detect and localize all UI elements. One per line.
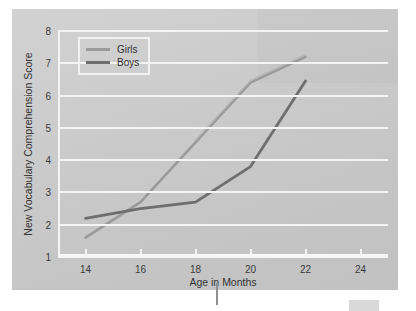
legend-item-girls: Girls — [86, 43, 139, 56]
chart-page: New Vocabulary Comprehension Score Age i… — [0, 0, 416, 311]
x-tick-mark — [360, 249, 362, 258]
line-boys — [86, 81, 306, 218]
y-tick-label: 8 — [45, 26, 51, 37]
x-tick-label: 14 — [80, 264, 91, 275]
y-tick-label: 7 — [45, 58, 51, 69]
x-tick-label: 22 — [300, 264, 311, 275]
y-tick-label: 4 — [45, 155, 51, 166]
gridline — [58, 159, 388, 161]
y-tick-label: 5 — [45, 122, 51, 133]
x-tick-label: 18 — [190, 264, 201, 275]
gridline — [58, 191, 388, 193]
x-tick-label: 16 — [135, 264, 146, 275]
y-tick-label: 1 — [45, 252, 51, 263]
y-axis-title: New Vocabulary Comprehension Score — [20, 31, 36, 257]
x-tick-label: 20 — [245, 264, 256, 275]
y-tick-label: 6 — [45, 90, 51, 101]
y-tick-label: 2 — [45, 219, 51, 230]
legend-label-girls: Girls — [117, 44, 138, 55]
chart-legend: Girls Boys — [78, 37, 150, 75]
legend-item-boys: Boys — [86, 56, 139, 69]
gridline — [58, 224, 388, 226]
scan-artifact-mark — [216, 283, 218, 305]
legend-label-boys: Boys — [117, 57, 139, 68]
x-axis-line — [58, 254, 388, 257]
x-tick-mark — [305, 249, 307, 258]
legend-swatch-boys — [86, 61, 110, 64]
scan-artifact-smudge — [349, 300, 379, 311]
gridline — [58, 127, 388, 129]
x-tick-mark — [85, 249, 87, 258]
gridline — [58, 30, 388, 32]
gridline — [58, 95, 388, 97]
legend-swatch-girls — [86, 48, 110, 51]
x-tick-label: 24 — [355, 264, 366, 275]
x-tick-mark — [195, 249, 197, 258]
x-tick-mark — [140, 249, 142, 258]
x-axis-title: Age in Months — [58, 276, 388, 288]
line-girls — [86, 57, 306, 238]
y-tick-label: 3 — [45, 187, 51, 198]
y-axis-line — [58, 31, 60, 257]
x-tick-mark — [250, 249, 252, 258]
